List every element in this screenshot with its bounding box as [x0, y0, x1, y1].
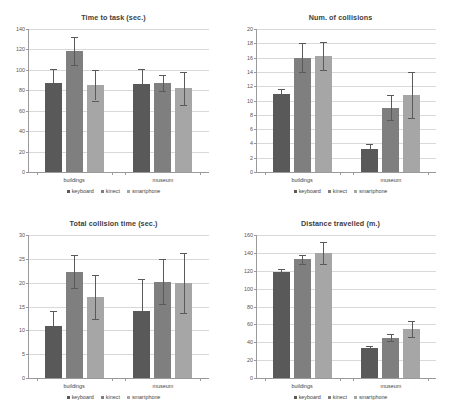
- error-bar-cap: [71, 255, 78, 256]
- error-bar-cap: [366, 346, 373, 347]
- y-axis-tick-label: 100: [16, 67, 25, 73]
- x-axis-tickmark: [200, 172, 201, 175]
- error-bar-keyboard-buildings: [281, 89, 282, 99]
- error-bar-cap: [387, 334, 394, 335]
- legend-item-kinect[interactable]: kinect: [101, 189, 120, 194]
- x-axis-category-label: museum: [381, 177, 402, 183]
- error-bar-cap: [366, 154, 373, 155]
- legend-item-smartphone[interactable]: smartphone: [354, 189, 387, 194]
- error-bar-cap: [299, 255, 306, 256]
- bar-groups: [256, 29, 436, 172]
- legend-item-smartphone[interactable]: smartphone: [354, 395, 387, 400]
- error-bar-cap: [138, 344, 145, 345]
- legend-swatch-icon: [67, 396, 71, 400]
- legend-item-keyboard[interactable]: keyboard: [294, 189, 321, 194]
- error-bar-cap: [299, 72, 306, 73]
- bar-kinect-museum: [382, 338, 399, 378]
- error-bar-cap: [408, 72, 415, 73]
- y-axis-tick-label: 80: [19, 87, 25, 93]
- error-bar-cap: [92, 101, 99, 102]
- legend-swatch-icon: [328, 190, 332, 194]
- plot-area: 020406080100120140160buildingsmuseum: [256, 235, 436, 378]
- legend-item-smartphone[interactable]: smartphone: [127, 189, 160, 194]
- error-bar-cap: [320, 242, 327, 243]
- error-bar-smartphone-museum: [184, 72, 185, 105]
- bar-groups: [28, 29, 209, 172]
- legend-swatch-icon: [127, 190, 131, 194]
- x-axis-tickmark: [265, 172, 266, 175]
- x-axis-tickmark: [265, 378, 266, 381]
- error-bar-smartphone-buildings: [323, 242, 324, 263]
- plot-area: 020406080100120140buildingsmuseum: [28, 29, 209, 172]
- x-axis-ticks: [28, 378, 209, 382]
- error-bar-cap: [138, 279, 145, 280]
- error-bar-cap: [387, 341, 394, 342]
- error-bar-kinect-museum: [391, 95, 392, 119]
- y-axis-tick-label: 100: [244, 286, 253, 292]
- x-axis-tickmark: [125, 378, 126, 381]
- y-axis-tick-label: 0: [22, 169, 25, 175]
- x-axis-ticks: [256, 172, 436, 176]
- y-axis-tick-label: 0: [250, 169, 253, 175]
- bar-keyboard-buildings: [273, 94, 290, 172]
- legend-item-smartphone[interactable]: smartphone: [127, 395, 160, 400]
- error-bar-cap: [180, 253, 187, 254]
- legend-label: kinect: [106, 395, 120, 400]
- error-bar-cap: [50, 340, 57, 341]
- y-axis-tick-label: 30: [19, 232, 25, 238]
- x-axis-tickmark: [112, 378, 113, 381]
- error-bar-keyboard-museum: [142, 69, 143, 99]
- error-bar-keyboard-museum: [142, 279, 143, 344]
- x-axis-tickmark: [125, 172, 126, 175]
- legend-label: smartphone: [132, 189, 160, 194]
- error-bar-cap: [299, 264, 306, 265]
- error-bar-smartphone-museum: [412, 72, 413, 118]
- error-bar-cap: [180, 72, 187, 73]
- error-bar-keyboard-museum: [370, 144, 371, 154]
- error-bar-cap: [278, 269, 285, 270]
- chart-panel-num-of-collisions: Num. of collisions02468101214161820build…: [227, 0, 454, 206]
- error-bar-kinect-buildings: [74, 255, 75, 288]
- y-axis-tick-label: 20: [247, 357, 253, 363]
- legend-item-kinect[interactable]: kinect: [328, 395, 347, 400]
- error-bar-smartphone-buildings: [95, 275, 96, 320]
- y-axis-tick-label: 140: [16, 26, 25, 32]
- error-bar-kinect-buildings: [302, 255, 303, 264]
- legend-item-keyboard[interactable]: keyboard: [67, 189, 94, 194]
- x-axis-category-label: buildings: [64, 177, 85, 183]
- y-axis-tick-label: 6: [250, 126, 253, 132]
- error-bar-cap: [159, 91, 166, 92]
- legend: keyboardkinectsmartphone: [0, 395, 227, 400]
- plot-area: 02468101214161820buildingsmuseum: [256, 29, 436, 172]
- y-axis-tick-label: 16: [247, 55, 253, 61]
- error-bar-cap: [138, 99, 145, 100]
- y-axis-tick-label: 0: [250, 375, 253, 381]
- error-bar-cap: [159, 259, 166, 260]
- legend-item-kinect[interactable]: kinect: [101, 395, 120, 400]
- y-axis-tick-label: 25: [19, 256, 25, 262]
- error-bar-cap: [408, 337, 415, 338]
- error-bar-keyboard-buildings: [53, 69, 54, 98]
- legend-swatch-icon: [127, 396, 131, 400]
- error-bar-cap: [92, 319, 99, 320]
- y-axis-tick-label: 20: [19, 149, 25, 155]
- legend-swatch-icon: [101, 396, 105, 400]
- error-bar-cap: [299, 43, 306, 44]
- error-bar-kinect-museum: [163, 259, 164, 304]
- legend: keyboardkinectsmartphone: [227, 395, 454, 400]
- x-axis-tickmark: [353, 378, 354, 381]
- legend-item-keyboard[interactable]: keyboard: [294, 395, 321, 400]
- error-bar-cap: [387, 120, 394, 121]
- error-bar-cap: [71, 65, 78, 66]
- error-bar-cap: [320, 70, 327, 71]
- error-bar-cap: [50, 97, 57, 98]
- legend-item-kinect[interactable]: kinect: [328, 189, 347, 194]
- chart-title: Num. of collisions: [227, 13, 454, 22]
- y-axis-tick-label: 2: [250, 155, 253, 161]
- x-axis-ticks: [256, 378, 436, 382]
- legend-item-keyboard[interactable]: keyboard: [67, 395, 94, 400]
- x-axis-tickmark: [37, 378, 38, 381]
- error-bar-cap: [387, 95, 394, 96]
- error-bar-cap: [366, 349, 373, 350]
- x-axis-tickmark: [428, 378, 429, 381]
